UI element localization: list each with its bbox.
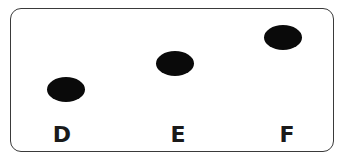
point-e-label: E bbox=[163, 124, 193, 146]
point-d-label: D bbox=[47, 124, 77, 146]
point-f-dot bbox=[264, 25, 302, 50]
point-e-dot bbox=[156, 51, 194, 76]
point-d-dot bbox=[47, 77, 85, 102]
point-f-label: F bbox=[272, 124, 302, 146]
